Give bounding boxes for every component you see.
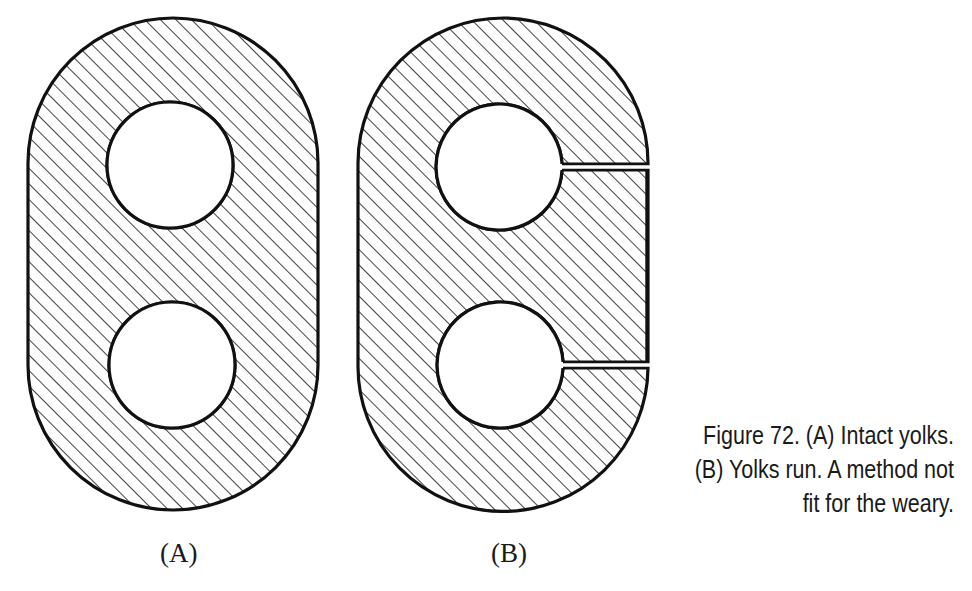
egg-white-outline-b <box>358 18 648 511</box>
egg-white-outline-a <box>28 18 318 510</box>
yolk-top-a <box>107 102 233 228</box>
figure-caption: Figure 72. (A) Intact yolks. (B) Yolks r… <box>670 418 954 520</box>
caption-line-3: fit for the weary. <box>670 486 954 520</box>
slit-bottom-b <box>562 364 651 367</box>
shape-b-yolks-run <box>358 18 651 511</box>
yolk-bottom-b <box>437 302 563 428</box>
panel-label-b: (B) <box>491 538 527 569</box>
panel-label-a: (A) <box>160 538 197 569</box>
slit-top-b <box>561 166 650 169</box>
yolk-bottom-a <box>109 302 235 428</box>
caption-line-1: Figure 72. (A) Intact yolks. <box>670 418 954 452</box>
caption-line-2: (B) Yolks run. A method not <box>670 452 954 486</box>
shape-a-intact-yolks <box>28 18 318 510</box>
yolk-top-b <box>436 104 562 230</box>
